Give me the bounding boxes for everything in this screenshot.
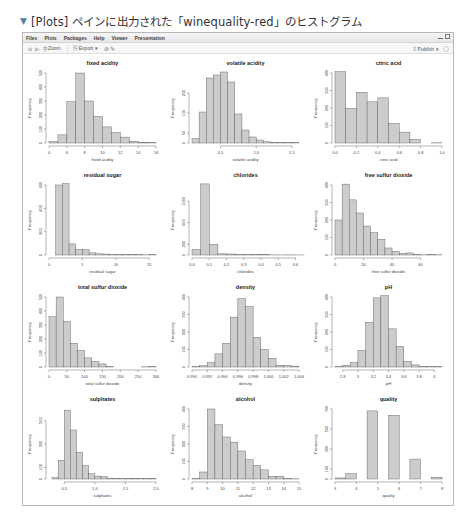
x-axis: 0.51.01.5 — [218, 146, 296, 155]
svg-text:400: 400 — [324, 293, 329, 300]
x-axis: 0.51.01.52.0 — [62, 482, 160, 491]
histogram-bar — [291, 366, 299, 367]
back-arrow-icon[interactable]: ◀ — [27, 45, 32, 52]
histogram-fixed-acidity: fixed acidity46810121416fixed acidity010… — [25, 55, 168, 171]
histogram-bar — [428, 254, 435, 255]
window-controls — [438, 34, 450, 39]
histogram-bar — [389, 123, 400, 143]
histogram-bar — [346, 474, 357, 479]
histogram-bar — [419, 366, 427, 367]
tab-help[interactable]: Help — [94, 35, 105, 41]
y-axis: 0100200300400500 — [38, 293, 46, 368]
svg-text:400: 400 — [324, 181, 329, 188]
histogram-volatile-acidity: volatile acidity0.51.01.5volatile acidit… — [168, 55, 311, 171]
histogram-bar — [215, 354, 223, 367]
histogram-bar — [389, 415, 400, 479]
svg-text:2.0: 2.0 — [153, 486, 159, 491]
svg-text:3.2: 3.2 — [370, 374, 376, 379]
x-axis-label: fixed acidity — [92, 157, 115, 162]
y-axis: 0100300500700 — [324, 405, 332, 480]
svg-text:0.5: 0.5 — [218, 150, 224, 155]
maximize-pane-button[interactable] — [445, 34, 450, 39]
histogram-free-sulfur-dioxide: free sulfur dioxide0204060free sulfur di… — [311, 167, 454, 283]
tab-presentation[interactable]: Presentation — [135, 35, 165, 41]
svg-text:100: 100 — [324, 345, 329, 352]
export-button[interactable]: ⎘ Export ▾ — [73, 45, 98, 52]
histogram-bar — [82, 250, 89, 255]
zoom-button[interactable]: ⚲ Zoom — [43, 45, 61, 52]
publish-button[interactable]: ⇪ Publish ▾ — [412, 45, 439, 52]
svg-text:700: 700 — [324, 405, 329, 412]
triangle-marker-icon: ▼ — [20, 16, 27, 26]
histogram-bar — [70, 430, 76, 479]
histogram-bar — [268, 358, 276, 367]
histogram-bar — [246, 460, 254, 479]
svg-text:0: 0 — [48, 262, 51, 267]
remove-plot-icon[interactable]: ⊘ — [104, 45, 109, 52]
svg-text:0: 0 — [38, 141, 43, 144]
x-axis-label: pH — [386, 381, 391, 386]
svg-text:0: 0 — [181, 253, 186, 256]
histogram-total-sulfur-dioxide: total sulfur dioxide050100150200250300to… — [25, 279, 168, 395]
svg-text:4: 4 — [48, 150, 51, 155]
svg-text:3: 3 — [357, 374, 360, 379]
svg-text:50: 50 — [181, 130, 186, 135]
svg-text:0.4: 0.4 — [258, 262, 264, 267]
histogram-bar — [120, 137, 129, 143]
svg-text:400: 400 — [38, 204, 43, 211]
histogram-bar — [411, 365, 419, 367]
x-axis: 051015 — [48, 258, 152, 267]
svg-text:0: 0 — [334, 262, 337, 267]
y-axis-label: Frequency — [170, 321, 175, 342]
svg-text:40: 40 — [390, 262, 395, 267]
svg-text:0.994: 0.994 — [218, 374, 229, 379]
svg-text:250: 250 — [181, 89, 186, 96]
export-icon: ⎘ — [73, 45, 78, 52]
svg-text:10: 10 — [220, 486, 225, 491]
chart-title: quality — [380, 396, 399, 402]
histogram-bar — [221, 72, 228, 143]
y-axis: 0100200300400 — [324, 181, 332, 256]
tab-files[interactable]: Files — [26, 35, 37, 41]
forward-arrow-icon[interactable]: ▶ — [35, 45, 40, 52]
broom-clear-icon[interactable]: ✎ — [110, 45, 115, 52]
x-axis: 0.00.10.20.30.40.50.6 — [189, 258, 299, 267]
histogram-bar — [227, 254, 236, 255]
histogram-bar — [113, 478, 119, 479]
histogram-ph: pH2.833.23.43.63.84pH0100200300400Freque… — [311, 279, 454, 395]
svg-text:500: 500 — [324, 425, 329, 432]
svg-text:15: 15 — [147, 262, 152, 267]
svg-text:8: 8 — [84, 150, 87, 155]
publish-label: Publish — [418, 46, 434, 52]
tab-viewer[interactable]: Viewer — [112, 35, 128, 41]
histogram-bar — [206, 78, 213, 143]
histogram-bar — [367, 102, 378, 143]
svg-text:300: 300 — [181, 310, 186, 317]
svg-text:400: 400 — [324, 69, 329, 76]
histogram-bar — [276, 476, 284, 479]
histogram-bar — [342, 184, 349, 255]
svg-text:600: 600 — [38, 181, 43, 188]
svg-text:200: 200 — [324, 328, 329, 335]
svg-text:1.5: 1.5 — [289, 150, 295, 155]
chevron-down-icon: ▾ — [436, 46, 439, 52]
figure-caption: ▼ [Plots] ペインに出力された「winequality-red」のヒスト… — [20, 13, 363, 29]
y-axis-label: Frequency — [170, 209, 175, 230]
svg-text:0.990: 0.990 — [187, 374, 198, 379]
histogram-bar — [385, 248, 392, 255]
histogram-bar — [228, 82, 235, 143]
histogram-bar — [246, 307, 254, 367]
histogram-bar — [207, 363, 215, 367]
tab-plots[interactable]: Plots — [44, 35, 56, 41]
minimize-pane-button[interactable] — [438, 38, 443, 39]
svg-text:300: 300 — [38, 440, 43, 447]
histogram-bar — [76, 73, 85, 143]
histogram-bar — [431, 477, 442, 479]
x-axis: 050100150200250300 — [48, 370, 160, 379]
svg-text:1000: 1000 — [181, 196, 186, 206]
refresh-icon[interactable] — [443, 46, 449, 52]
svg-text:9: 9 — [206, 486, 209, 491]
histogram-bar — [367, 411, 378, 479]
histogram-bar — [125, 478, 131, 479]
tab-packages[interactable]: Packages — [64, 35, 87, 41]
